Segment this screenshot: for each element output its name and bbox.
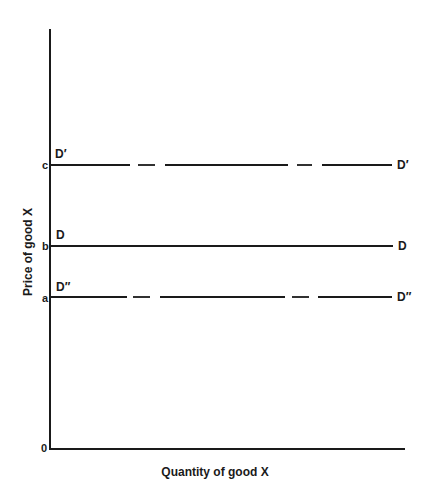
y-tick-b: b [42,241,49,252]
label-d-double-prime-right: D′′ [397,291,411,303]
label-d-prime-right: D′ [397,159,409,171]
origin-label: 0 [41,443,47,454]
label-d-double-prime-left: D′′ [56,281,70,293]
y-axis-title: Price of good X [21,208,35,296]
label-d-right: D [398,240,407,252]
y-tick-a: a [42,293,48,304]
diagram-canvas [0,0,433,494]
x-axis-title: Quantity of good X [161,465,268,479]
label-d-prime-left: D′ [55,148,67,160]
label-d-left: D [56,229,65,241]
y-tick-c: c [42,160,48,171]
